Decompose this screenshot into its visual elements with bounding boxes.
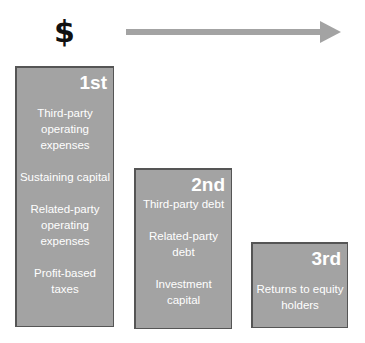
rank-label: 1st <box>80 72 107 94</box>
list-item: Returns to equity holders <box>255 281 345 313</box>
list-item: Investment capital <box>138 276 229 308</box>
rank-label: 3rd <box>311 248 341 270</box>
list-item: Sustaining capital <box>19 169 111 185</box>
box-items: Third-party debt Related-party debt Inve… <box>136 196 231 324</box>
list-item: Profit-based taxes <box>19 265 111 297</box>
list-item: Related-party debt <box>138 228 229 260</box>
priority-box-3rd: 3rd Returns to equity holders <box>251 242 348 328</box>
box-items: Returns to equity holders <box>253 281 347 313</box>
dollar-symbol: $ <box>54 14 75 50</box>
list-item: Related-party operating expenses <box>19 201 111 249</box>
rank-label: 2nd <box>191 174 225 196</box>
priority-box-2nd: 2nd Third-party debt Related-party debt … <box>134 168 232 329</box>
list-item: Third-party debt <box>138 196 229 212</box>
right-arrow-icon <box>126 20 342 44</box>
list-item: Third-party operating expenses <box>19 105 111 153</box>
priority-box-1st: 1st Third-party operating expenses Susta… <box>15 66 114 327</box>
box-items: Third-party operating expenses Sustainin… <box>17 105 113 313</box>
